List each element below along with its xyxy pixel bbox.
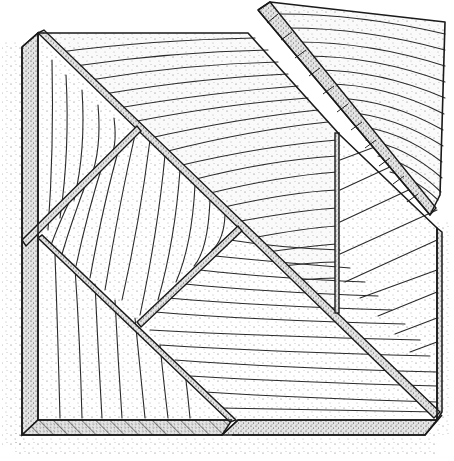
bottom-bevel-left <box>22 420 232 435</box>
puzzle-drawing <box>0 0 454 461</box>
bottom-bevel-right <box>222 420 437 435</box>
tangram-illustration <box>0 0 454 461</box>
